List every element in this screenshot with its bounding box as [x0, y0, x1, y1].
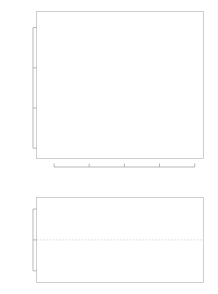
- statistical-figure: [0, 0, 218, 294]
- figure-canvas: [0, 0, 218, 294]
